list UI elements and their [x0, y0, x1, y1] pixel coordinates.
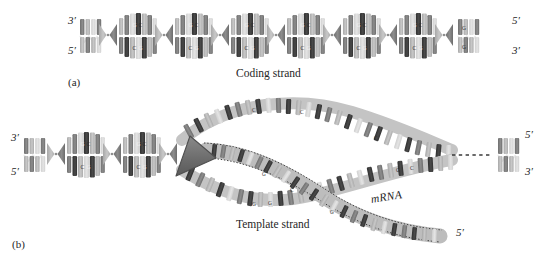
helix-lens-a-3 — [231, 13, 269, 59]
svg-text:G: G — [462, 25, 466, 31]
helix-waist-a-5 — [379, 24, 397, 46]
template-strand-label: Template strand — [236, 218, 310, 230]
panel-b-end-right-bottom: 3′ — [525, 165, 533, 177]
svg-text:C: C — [374, 135, 378, 141]
panel-b-end-right-top: 5′ — [525, 128, 533, 140]
helix-cap-left-a — [80, 19, 101, 53]
helix-waist-a-4 — [323, 24, 341, 46]
helix-lens-b-1 — [67, 132, 105, 178]
panel-a-helix: G G — [80, 13, 479, 59]
helix-lens-a-5 — [343, 13, 381, 59]
svg-text:G: G — [330, 209, 334, 215]
panel-b-end-left-top: 3′ — [11, 131, 19, 143]
panel-a-label: (a) — [68, 76, 80, 88]
svg-text:C: C — [410, 165, 414, 171]
mrna-end-label: 5′ — [456, 226, 464, 238]
svg-text:G: G — [252, 201, 256, 207]
coding-strand-label: Coding strand — [236, 67, 301, 79]
panel-b-end-left-bottom: 5′ — [11, 165, 19, 177]
transcription-figure: G C C G — [0, 0, 543, 265]
helix-lens-a-4 — [287, 13, 325, 59]
svg-text:G: G — [462, 44, 466, 50]
helix-cap-right-a: G G — [458, 19, 479, 53]
helix-waist-a-0 — [99, 24, 117, 46]
panel-a-end-left-bottom: 5′ — [68, 44, 76, 56]
svg-text:C: C — [252, 107, 256, 113]
helix-lens-a-6 — [399, 13, 437, 59]
helix-waist-a-1 — [155, 24, 173, 46]
svg-text:C: C — [290, 187, 294, 193]
svg-text:G: G — [268, 200, 272, 206]
helix-cap-left-b — [24, 138, 45, 172]
helix-lens-a-2 — [175, 13, 213, 59]
panel-a-end-left-top: 3′ — [68, 14, 76, 26]
helix-waist-a-3 — [267, 24, 285, 46]
svg-text:G: G — [396, 167, 400, 173]
helix-waist-b-2 — [159, 143, 177, 165]
helix-cap-right-b — [498, 138, 519, 172]
panel-a-end-right-top: 5′ — [512, 14, 520, 26]
panel-a-end-right-bottom: 3′ — [512, 44, 520, 56]
helix-lens-b-2 — [123, 132, 161, 178]
panel-b-label: (b) — [12, 238, 25, 250]
svg-text:G: G — [262, 171, 266, 177]
helix-waist-a-6 — [435, 24, 453, 46]
helix-waist-b-0 — [47, 143, 65, 165]
svg-text:C: C — [300, 109, 304, 115]
helix-waist-a-2 — [211, 24, 229, 46]
helix-lens-a-1 — [119, 13, 157, 59]
helix-waist-b-1 — [103, 143, 121, 165]
